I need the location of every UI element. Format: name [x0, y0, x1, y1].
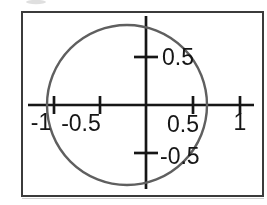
plot-group: -1 -0.5 0.5 1 0.5 -0.5 — [22, 0, 264, 198]
scan-smudge — [26, 0, 46, 4]
x-tick-label-05: 0.5 — [167, 111, 199, 137]
x-tick-label-neg05: -0.5 — [61, 110, 101, 136]
x-tick-label-neg1: -1 — [31, 109, 51, 135]
y-tick-label-neg05: -0.5 — [160, 143, 200, 169]
x-tick-label-1: 1 — [234, 109, 247, 135]
scanned-plot-figure: -1 -0.5 0.5 1 0.5 -0.5 — [0, 0, 267, 205]
y-tick-label-05: 0.5 — [162, 44, 194, 70]
circle-plot-svg: -1 -0.5 0.5 1 0.5 -0.5 — [0, 0, 267, 205]
